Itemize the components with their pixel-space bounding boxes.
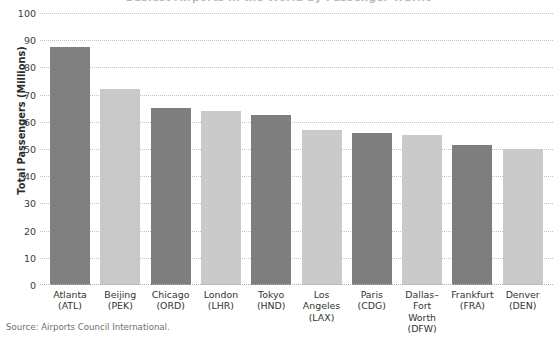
x-tick-label-line: Denver (495, 289, 551, 300)
x-tick-label-line: (ATL) (42, 300, 98, 311)
y-axis-title: Total Passengers (Millions) (16, 13, 27, 228)
x-tick-label-line: Worth (394, 312, 450, 323)
x-tick-label-line: (LAX) (294, 312, 350, 323)
x-tick-label-line: (HND) (243, 300, 299, 311)
x-tick-label: Atlanta(ATL) (42, 289, 98, 312)
x-tick-label-line: (LHR) (193, 300, 249, 311)
x-tick-label-line: Dallas– (394, 289, 450, 300)
axis-baseline (40, 284, 553, 285)
x-tick-label: Beijing(PEK) (92, 289, 148, 312)
x-tick-label: Dallas–FortWorth(DFW) (394, 289, 450, 335)
bar (201, 111, 241, 285)
x-tick-label-line: Chicago (143, 289, 199, 300)
x-tick-label-line: (CDG) (344, 300, 400, 311)
source-note: Source: Airports Council International. (6, 322, 170, 332)
y-tick-label: 0 (2, 280, 36, 291)
bar (352, 133, 392, 285)
x-tick-label-line: (PEK) (92, 300, 148, 311)
x-tick-label-line: Paris (344, 289, 400, 300)
x-tick-label-line: London (193, 289, 249, 300)
x-tick-label: Chicago(ORD) (143, 289, 199, 312)
bar-chart-figure: Busiest Airports in the World by Passeng… (0, 0, 557, 342)
chart-title-clipped: Busiest Airports in the World by Passeng… (0, 0, 557, 3)
x-tick-label: Frankfurt(FRA) (444, 289, 500, 312)
x-tick-label-line: Tokyo (243, 289, 299, 300)
bar-series (40, 13, 553, 285)
x-tick-label-line: Beijing (92, 289, 148, 300)
x-tick-label-line: Angeles (294, 300, 350, 311)
x-tick-label-line: (FRA) (444, 300, 500, 311)
bar (302, 130, 342, 285)
bar (100, 89, 140, 285)
bar (452, 145, 492, 285)
x-tick-label-line: Atlanta (42, 289, 98, 300)
x-tick-label: London(LHR) (193, 289, 249, 312)
x-tick-label: Paris(CDG) (344, 289, 400, 312)
x-tick-label-line: (DEN) (495, 300, 551, 311)
x-tick-label-line: (DFW) (394, 323, 450, 334)
bar (402, 135, 442, 285)
x-tick-label-line: Fort (394, 300, 450, 311)
bar (503, 149, 543, 285)
bar (151, 108, 191, 285)
x-tick-label: Tokyo(HND) (243, 289, 299, 312)
x-tick-label-line: Frankfurt (444, 289, 500, 300)
x-tick-label-line: Los (294, 289, 350, 300)
x-tick-label-line: (ORD) (143, 300, 199, 311)
y-tick-label: 10 (2, 252, 36, 263)
bar (251, 115, 291, 285)
x-tick-label: Denver(DEN) (495, 289, 551, 312)
x-tick-label: LosAngeles(LAX) (294, 289, 350, 323)
bar (50, 47, 90, 285)
plot-area (40, 13, 553, 285)
